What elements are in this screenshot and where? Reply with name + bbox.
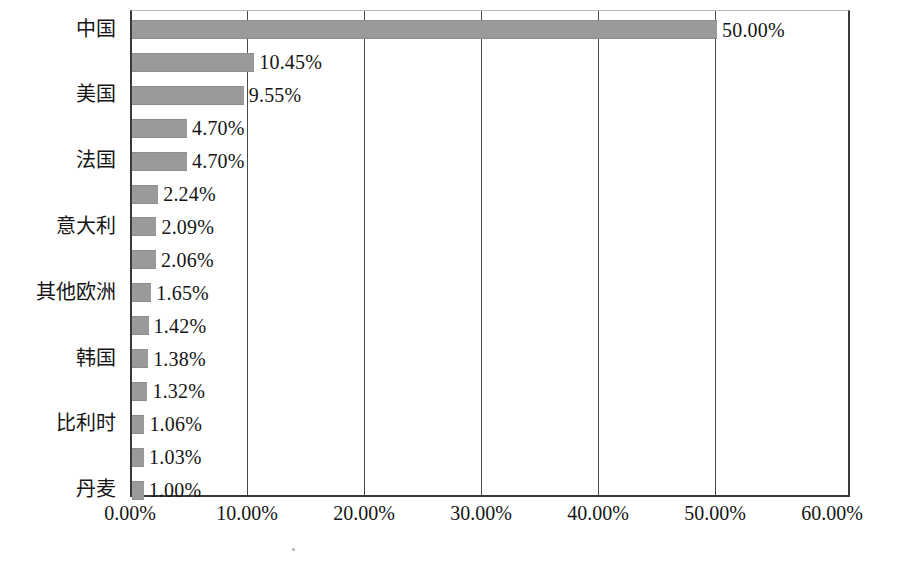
bar bbox=[132, 20, 717, 39]
gridline-40.00% bbox=[598, 11, 599, 495]
category-label: 美国 bbox=[76, 84, 116, 104]
bar-value-label: 2.24% bbox=[163, 184, 216, 204]
bar-value-label: 1.38% bbox=[153, 349, 206, 369]
bar bbox=[132, 152, 187, 171]
y-axis-labels: 中国美国法国意大利其他欧洲韩国比利时丹麦 bbox=[0, 10, 124, 497]
category-label: 中国 bbox=[76, 19, 116, 39]
bar-value-label: 1.42% bbox=[154, 316, 207, 336]
gridline-20.00% bbox=[364, 11, 365, 495]
bar bbox=[132, 119, 187, 138]
bar-value-label: 1.32% bbox=[152, 381, 205, 401]
bar-value-label: 1.65% bbox=[156, 283, 209, 303]
x-tick-label: 40.00% bbox=[567, 503, 629, 523]
bar bbox=[132, 217, 156, 236]
bar bbox=[132, 185, 158, 204]
bar bbox=[132, 349, 148, 368]
bar bbox=[132, 283, 151, 302]
x-tick-label: 30.00% bbox=[450, 503, 512, 523]
bar-value-label: 1.06% bbox=[149, 414, 202, 434]
bar-value-label: 10.45% bbox=[259, 52, 322, 72]
bar-value-label: 50.00% bbox=[722, 20, 785, 40]
bar-value-label: 4.70% bbox=[192, 118, 245, 138]
bar bbox=[132, 415, 144, 434]
bar-value-label: 2.09% bbox=[161, 217, 214, 237]
bar bbox=[132, 86, 244, 105]
category-label: 丹麦 bbox=[76, 479, 116, 499]
x-tick-label: 60.00% bbox=[801, 503, 863, 523]
bar bbox=[132, 382, 147, 401]
page-speck bbox=[292, 548, 295, 551]
bar-value-label: 1.00% bbox=[149, 480, 202, 500]
bar-value-label: 1.03% bbox=[149, 447, 202, 467]
bar bbox=[132, 316, 149, 335]
bar bbox=[132, 250, 156, 269]
bar bbox=[132, 448, 144, 467]
x-tick-label: 50.00% bbox=[684, 503, 746, 523]
bar bbox=[132, 53, 254, 72]
category-label: 法国 bbox=[76, 150, 116, 170]
x-tick-label: 10.00% bbox=[216, 503, 278, 523]
category-label: 韩国 bbox=[76, 348, 116, 368]
x-axis-tick-labels: 0.00%10.00%20.00%30.00%40.00%50.00%60.00… bbox=[0, 503, 912, 537]
x-tick-label: 0.00% bbox=[104, 503, 156, 523]
category-label: 意大利 bbox=[56, 216, 116, 236]
category-label: 其他欧洲 bbox=[36, 282, 116, 302]
gridline-50.00% bbox=[715, 11, 716, 495]
bar-value-label: 9.55% bbox=[249, 85, 302, 105]
bar-value-label: 2.06% bbox=[161, 250, 214, 270]
x-tick-label: 20.00% bbox=[333, 503, 395, 523]
bar-value-label: 4.70% bbox=[192, 151, 245, 171]
plot-area: 50.00%10.45%9.55%4.70%4.70%2.24%2.09%2.0… bbox=[130, 10, 850, 497]
gridline-30.00% bbox=[481, 11, 482, 495]
category-label: 比利时 bbox=[56, 413, 116, 433]
bar bbox=[132, 481, 144, 500]
bar-chart: 中国美国法国意大利其他欧洲韩国比利时丹麦 50.00%10.45%9.55%4.… bbox=[0, 0, 912, 561]
